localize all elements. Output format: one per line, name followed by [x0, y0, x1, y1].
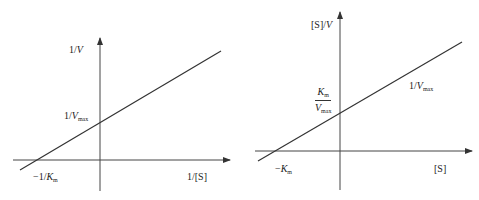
label-var: V [77, 44, 83, 55]
left-y-intercept-label: 1/Vmax [64, 111, 88, 122]
label-sub: m [287, 169, 292, 175]
lineweaver-burk-plot [13, 38, 230, 191]
fraction-numerator: Km [315, 87, 331, 101]
right-plot-line [258, 42, 462, 161]
label-var: V [326, 19, 332, 30]
fraction-denominator: Vmax [315, 101, 331, 114]
right-x-axis-label: [S] [434, 164, 446, 174]
left-x-intercept-label: −1/Km [33, 172, 58, 183]
label-prefix: −1/ [33, 171, 46, 182]
left-x-axis-label: 1/[S] [187, 172, 207, 182]
label-sub: max [78, 116, 88, 122]
label-sub: m [53, 177, 58, 183]
left-plot-line [20, 51, 221, 170]
label-prefix: 1/ [69, 44, 77, 55]
label-prefix: 1/ [64, 110, 72, 121]
right-x-intercept-label: −Km [275, 164, 292, 175]
label-sub: max [423, 86, 433, 92]
left-y-axis-label: 1/V [69, 45, 83, 55]
right-y-intercept-label: Km Vmax [315, 87, 331, 114]
label-prefix: [S]/ [311, 19, 326, 30]
label-sub: max [321, 108, 331, 114]
label-prefix: 1/ [409, 80, 417, 91]
right-y-axis-label: [S]/V [311, 20, 332, 30]
right-slope-label: 1/Vmax [409, 81, 433, 92]
label-sub: m [324, 92, 329, 98]
plots-canvas [0, 0, 479, 200]
